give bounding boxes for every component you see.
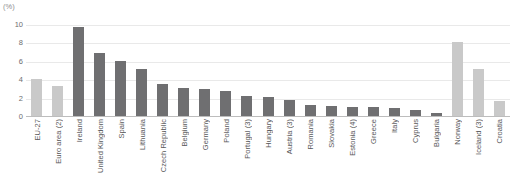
bar [94, 53, 105, 117]
x-tick-label: Estonia (4) [347, 119, 358, 156]
bar [52, 86, 63, 117]
x-tick-label: Ireland [74, 119, 85, 142]
x-tick-label: Croatia [494, 119, 505, 144]
x-tick-label: Iceland (3) [473, 119, 484, 155]
x-tick-label: Romania [305, 119, 316, 149]
x-tick-label: Euro area (2) [53, 119, 64, 164]
bar [220, 91, 231, 117]
y-tick-label: 10 [3, 21, 23, 29]
y-tick-label: 4 [3, 76, 23, 84]
x-tick-label: United Kingdom [95, 119, 106, 173]
x-tick-label: Portugal (3) [242, 119, 253, 159]
bar [473, 69, 484, 117]
x-tick-label: Slovakia [326, 119, 337, 148]
x-tick-label: Spain [116, 119, 127, 138]
bar [452, 42, 463, 117]
bar-series [26, 25, 510, 117]
bar [73, 27, 84, 117]
x-tick-label: Hungary [263, 119, 274, 148]
x-tick-label: Belgium [179, 119, 190, 146]
y-tick-label: 6 [3, 58, 23, 66]
bar [157, 84, 168, 117]
bar [199, 89, 210, 117]
x-axis-category-labels: EU-27Euro area (2)IrelandUnited KingdomS… [26, 119, 510, 183]
bar [284, 100, 295, 117]
x-tick-label: Czech Republic [158, 119, 169, 172]
x-tick-label: Poland [221, 119, 232, 143]
x-tick-label: Greece [368, 119, 379, 144]
bar [241, 96, 252, 117]
y-tick-label: 8 [3, 39, 23, 47]
x-tick-label: Norway [452, 119, 463, 145]
bar [494, 101, 505, 117]
bar-chart: (%) 0246810 EU-27Euro area (2)IrelandUni… [0, 0, 512, 183]
x-tick-label: Bulgaria [431, 119, 442, 147]
x-tick-label: Lithuania [137, 119, 148, 150]
y-axis-tick-labels: 0246810 [0, 25, 23, 117]
bar [178, 88, 189, 117]
x-axis-line [26, 116, 510, 117]
y-axis-unit-label: (%) [3, 2, 15, 11]
x-tick-label: EU-27 [32, 119, 43, 141]
y-tick-label: 2 [3, 95, 23, 103]
bar [115, 61, 126, 117]
x-tick-label: Cyprus [410, 119, 421, 143]
y-tick-label: 0 [3, 113, 23, 121]
x-tick-label: Germany [200, 119, 211, 150]
x-tick-label: Italy [389, 119, 400, 133]
x-tick-label: Austria (3) [284, 119, 295, 154]
bar [136, 69, 147, 117]
plot-area [26, 25, 510, 117]
bar [263, 97, 274, 117]
bar [31, 79, 42, 117]
